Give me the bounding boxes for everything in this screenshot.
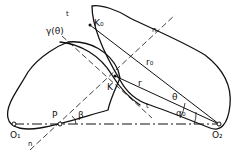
label-r: r bbox=[138, 78, 142, 88]
label-alpha0: α₀ bbox=[176, 108, 186, 118]
label-n-top: n bbox=[152, 26, 156, 34]
label-gamma-theta: γ(θ) bbox=[46, 26, 64, 36]
label-beta: β bbox=[78, 110, 84, 120]
label-t-bottom: t bbox=[146, 102, 149, 110]
point-P bbox=[58, 122, 62, 126]
label-K: K bbox=[107, 82, 114, 92]
radius-r bbox=[115, 76, 219, 124]
radius-r0 bbox=[90, 25, 219, 124]
label-O1: O₁ bbox=[10, 130, 21, 140]
point-K0 bbox=[89, 24, 92, 27]
label-K0: K₀ bbox=[94, 18, 104, 28]
left-body-outline bbox=[8, 42, 120, 129]
point-K bbox=[114, 75, 117, 78]
label-P: P bbox=[52, 110, 58, 120]
label-O2: O₂ bbox=[212, 130, 223, 140]
tangent-line bbox=[62, 36, 152, 118]
point-O1 bbox=[12, 122, 16, 126]
point-O2 bbox=[217, 122, 221, 126]
label-n-bottom: n bbox=[28, 140, 32, 148]
label-t-top: t bbox=[66, 10, 69, 18]
gear-geometry-diagram: γ(θ) t K₀ n r₀ K r θ α₀ t P β O₁ O₂ n bbox=[0, 0, 235, 150]
label-r0: r₀ bbox=[146, 57, 154, 67]
right-body-outline bbox=[92, 6, 230, 129]
contact-curve bbox=[60, 42, 140, 105]
label-theta: θ bbox=[172, 92, 178, 102]
